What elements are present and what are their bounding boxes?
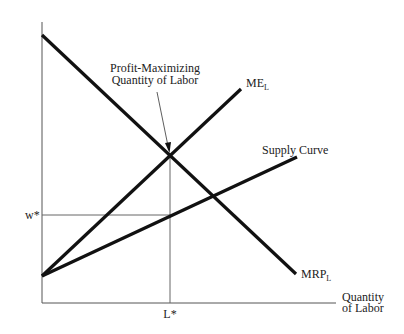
labor-market-diagram: Profit-Maximizing Quantity of Labor MEL …	[0, 0, 404, 334]
me-curve	[42, 89, 241, 276]
x-axis-label-line2: of Labor	[342, 301, 384, 315]
profit-max-arrow	[157, 92, 168, 146]
mrp-label: MRPL	[301, 267, 331, 283]
profit-max-label-line2: Quantity of Labor	[112, 73, 199, 87]
l-star-label: L*	[163, 307, 176, 321]
supply-curve-label: Supply Curve	[262, 143, 328, 157]
w-star-label: w*	[25, 208, 40, 222]
me-label: MEL	[246, 76, 269, 92]
